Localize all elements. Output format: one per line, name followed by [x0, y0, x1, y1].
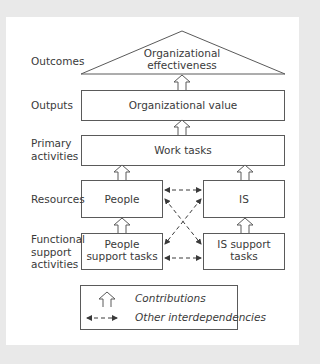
is-label: IS	[203, 193, 285, 206]
level-outputs: Outputs	[31, 99, 73, 112]
effectiveness-label-2: effectiveness	[120, 59, 244, 72]
people-label: People	[81, 193, 163, 206]
level-primary-1: Primary	[31, 137, 72, 150]
is-support-label-2: tasks	[203, 250, 285, 263]
level-primary-2: activities	[31, 150, 78, 163]
work-tasks-label: Work tasks	[81, 144, 285, 157]
level-functional-3: activities	[31, 258, 78, 271]
level-functional-1: Functional	[31, 233, 85, 246]
value-label: Organizational value	[81, 99, 285, 112]
level-outcomes: Outcomes	[31, 55, 84, 68]
people-support-label-2: support tasks	[81, 250, 163, 263]
legend-contributions: Contributions	[135, 292, 206, 304]
legend-interdependencies: Other interdependencies	[135, 311, 266, 323]
level-resources: Resources	[31, 193, 85, 206]
